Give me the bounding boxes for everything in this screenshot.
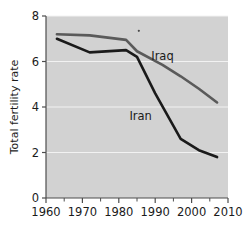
x-tick-label-2000: 2000 xyxy=(177,205,206,219)
y-tick-label-6: 6 xyxy=(32,55,39,69)
chart-canvas: 02468 196019701980199020002010 IraqIran … xyxy=(0,0,248,249)
y-tick-label-8: 8 xyxy=(32,9,39,23)
x-tick-label-1990: 1990 xyxy=(141,205,170,219)
x-tick-label-1960: 1960 xyxy=(31,205,60,219)
y-tick-label-2: 2 xyxy=(32,146,39,160)
y-tick-label-0: 0 xyxy=(32,191,39,205)
x-tick-label-2010: 2010 xyxy=(213,205,242,219)
y-axis-title: Total fertility rate xyxy=(8,60,21,156)
x-tick-label-1970: 1970 xyxy=(68,205,97,219)
series-label-iraq: Iraq xyxy=(151,49,173,63)
x-tick-label-1980: 1980 xyxy=(104,205,133,219)
fertility-rate-line-chart: 02468 196019701980199020002010 IraqIran … xyxy=(0,0,248,249)
y-tick-label-4: 4 xyxy=(32,100,39,114)
annotation-speck xyxy=(138,30,140,32)
series-label-iran: Iran xyxy=(129,109,151,123)
annotations-group xyxy=(138,30,140,32)
